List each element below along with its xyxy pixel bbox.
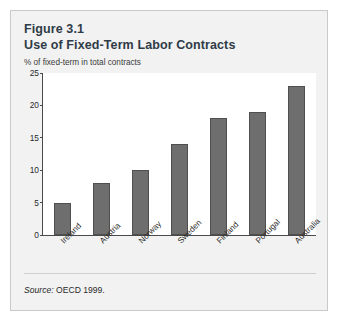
figure-number: Figure 3.1 — [24, 22, 84, 37]
y-tick-label: 10 — [30, 165, 42, 175]
figure-card: Figure 3.1 Use of Fixed-Term Labor Contr… — [10, 10, 328, 311]
y-tick-label: 5 — [34, 198, 42, 208]
bar — [132, 170, 149, 235]
chart-plot-area: 0510152025 IrelandAustriaNorwaySwedenFin… — [24, 73, 316, 248]
bar — [171, 144, 188, 235]
bar-series — [43, 73, 316, 235]
bar — [288, 86, 305, 235]
y-tick-label: 20 — [30, 100, 42, 110]
bar — [93, 183, 110, 235]
y-tick-label: 15 — [30, 133, 42, 143]
source-label: Source: — [24, 285, 54, 295]
y-axis-label: % of fixed-term in total contracts — [24, 58, 141, 67]
bar — [210, 118, 227, 235]
y-tick-label: 25 — [30, 68, 42, 78]
y-tick-label: 0 — [34, 230, 42, 240]
bar — [249, 112, 266, 235]
source-divider — [24, 273, 316, 274]
source-text: OECD 1999. — [56, 285, 105, 295]
figure-title: Use of Fixed-Term Labor Contracts — [24, 38, 235, 53]
source-note: Source: OECD 1999. — [24, 285, 105, 295]
